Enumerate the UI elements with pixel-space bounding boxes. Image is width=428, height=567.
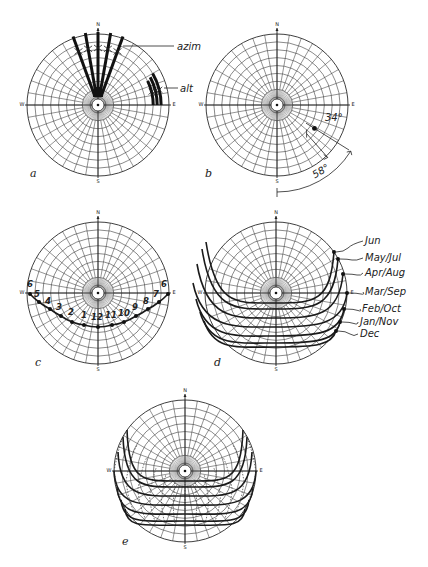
hour-point: [134, 314, 138, 318]
hour-label: 6: [161, 279, 167, 289]
hour-point: [70, 320, 74, 324]
compass-west-label: W: [20, 101, 25, 107]
hour-label: 1: [81, 310, 87, 320]
panel-letter-e: e: [122, 535, 129, 548]
hour-point: [96, 325, 100, 329]
polar-grid: NSWE: [107, 387, 263, 550]
altitude-arcs: [148, 73, 163, 105]
compass-east-label: E: [350, 289, 353, 295]
compass-west-label: W: [199, 101, 204, 107]
panel-letter-a: a: [30, 167, 37, 180]
compass-north-label: N: [274, 209, 278, 215]
panel-letter-d: d: [214, 356, 221, 369]
panel-e-combined-sun-chart: NSWE: [107, 387, 263, 550]
azim-label: azim: [177, 41, 201, 52]
sun-path-figure: NSWE NSWE NSWE6543211211109876 NSWEJunMa…: [0, 0, 428, 567]
compass-south-label: S: [275, 178, 278, 184]
month-label: Feb/Oct: [362, 303, 402, 314]
observer-dot: [184, 470, 187, 473]
hour-label: 7: [153, 289, 159, 299]
compass-south-label: S: [96, 178, 99, 184]
hour-label: 8: [143, 296, 149, 306]
sun-point: [312, 126, 317, 131]
month-label: Jan/Nov: [358, 316, 399, 327]
hour-label: 5: [34, 289, 40, 299]
compass-west-label: W: [20, 289, 25, 295]
altitude-34-label: 34°: [325, 112, 343, 123]
hour-label: 10: [118, 308, 130, 318]
compass-north-label: N: [96, 21, 100, 27]
hour-label: 11: [105, 310, 117, 320]
hour-label: 3: [56, 302, 62, 312]
month-label: Jun: [363, 235, 381, 246]
hour-point: [59, 314, 63, 318]
hour-label: 12: [91, 312, 103, 322]
hour-point: [37, 300, 41, 304]
compass-east-label: E: [172, 101, 175, 107]
compass-north-label: N: [183, 387, 187, 393]
compass-west-label: W: [198, 289, 203, 295]
compass-north-label: N: [96, 209, 100, 215]
compass-east-label: E: [259, 467, 262, 473]
month-label: Mar/Sep: [365, 286, 406, 297]
observer-dot: [275, 292, 278, 295]
hour-point: [166, 292, 170, 296]
panel-letter-c: c: [35, 356, 41, 369]
hour-point: [146, 307, 150, 311]
hour-label: 9: [132, 302, 138, 312]
hour-point: [122, 320, 126, 324]
compass-south-label: S: [183, 544, 186, 550]
observer-dot: [97, 104, 100, 107]
hour-label: 4: [44, 296, 51, 306]
azimuth-58-label: 58°: [310, 162, 331, 180]
hour-label: 6: [27, 279, 33, 289]
polar-grid: NSWE: [199, 21, 355, 184]
azimuth-lines: [73, 32, 123, 97]
panel-b-sun-position: NSWE: [199, 21, 355, 197]
compass-south-label: S: [274, 366, 277, 372]
panel-c-daily-sun-path: NSWE6543211211109876: [20, 209, 176, 372]
hour-point: [82, 323, 86, 327]
alt-label: alt: [180, 83, 194, 94]
month-label: Dec: [360, 328, 380, 339]
compass-south-label: S: [96, 366, 99, 372]
panel-d-monthly-sun-paths: NSWEJunMay/JulApr/AugMar/SepFeb/OctJan/N…: [193, 209, 406, 372]
hour-point: [110, 323, 114, 327]
month-label: May/Jul: [365, 252, 401, 263]
hour-label: 2: [68, 307, 74, 317]
panel-letter-b: b: [205, 167, 212, 180]
hour-point: [48, 307, 52, 311]
hour-point: [28, 292, 32, 296]
hour-point: [157, 300, 161, 304]
compass-west-label: W: [107, 467, 112, 473]
compass-east-label: E: [172, 289, 175, 295]
compass-north-label: N: [275, 21, 279, 27]
compass-east-label: E: [351, 101, 354, 107]
month-label: Apr/Aug: [364, 267, 405, 278]
observer-dot: [276, 104, 279, 107]
observer-dot: [97, 292, 100, 295]
